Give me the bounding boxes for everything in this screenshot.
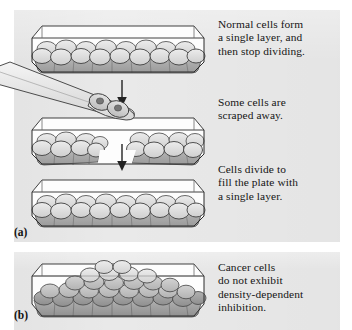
flow-arrow-step2-to-step3 — [114, 144, 130, 172]
panel-label-b: (b) — [14, 309, 28, 321]
caption-some-cells-scraped-away: Some cells are scraped away. — [218, 96, 286, 123]
culture-dish-cancer-mound — [28, 258, 208, 324]
caption-cells-divide-to-fill-plate: Cells divide to fill the plate with a si… — [218, 163, 298, 203]
culture-dish-refilled — [28, 172, 208, 234]
culture-dish-normal-monolayer — [28, 18, 208, 80]
caption-normal-cells-form-monolayer: Normal cells form a single layer, and th… — [218, 18, 305, 58]
panel-label-a: (a) — [14, 226, 27, 238]
caption-cancer-cells-no-inhibition: Cancer cells do not exhibit density-depe… — [218, 261, 303, 315]
figure-density-dependent-inhibition: Normal cells form a single layer, and th… — [0, 0, 352, 330]
cell-scraper-tool — [0, 72, 150, 130]
